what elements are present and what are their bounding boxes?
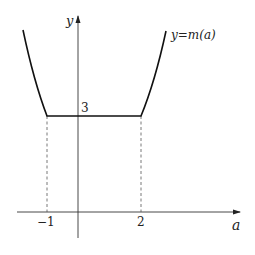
graph-m-of-a: y y=m(a) 3 −1 2 a (0, 0, 255, 255)
tick-label-y-3: 3 (81, 102, 89, 114)
x-axis-label: a (232, 218, 240, 232)
tick-label-x-neg1: −1 (37, 216, 55, 228)
tick-label-x-2: 2 (137, 216, 145, 228)
curve-label: y=m(a) (171, 29, 216, 41)
y-axis-label: y (66, 14, 73, 27)
curve-m-of-a (23, 30, 166, 116)
